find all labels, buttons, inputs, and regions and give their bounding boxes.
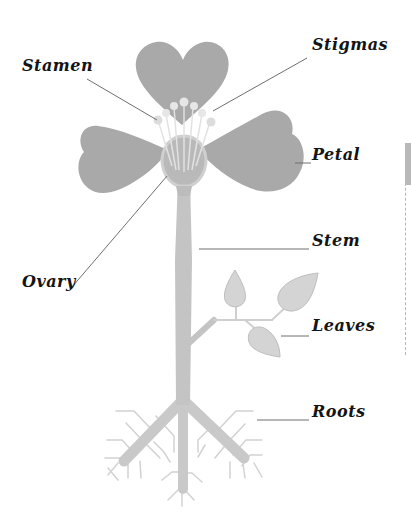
plant-diagram: Stamen Stigmas Petal Stem Ovary Leaves R… bbox=[0, 0, 411, 528]
leaves bbox=[224, 270, 318, 357]
page-edge-tab bbox=[405, 143, 411, 185]
stamen-tip bbox=[154, 116, 163, 125]
petal-top bbox=[136, 42, 229, 125]
leaf-twigs bbox=[214, 302, 290, 333]
leaf-top bbox=[224, 270, 245, 307]
petal-left bbox=[78, 126, 168, 193]
label-leaves: Leaves bbox=[312, 316, 375, 335]
main-roots bbox=[124, 400, 244, 489]
stem bbox=[175, 178, 192, 405]
leader-ovary bbox=[72, 176, 167, 287]
plant-illustration bbox=[0, 0, 411, 528]
label-stamen: Stamen bbox=[22, 56, 93, 75]
label-stigmas: Stigmas bbox=[312, 35, 388, 54]
label-ovary: Ovary bbox=[22, 272, 76, 291]
leaf-right bbox=[278, 273, 318, 311]
leaf-bottom bbox=[248, 327, 280, 357]
leaf-branch bbox=[188, 320, 214, 344]
label-roots: Roots bbox=[312, 402, 366, 421]
label-petal: Petal bbox=[312, 145, 360, 164]
label-stem: Stem bbox=[312, 231, 360, 250]
stigma-tip bbox=[207, 118, 216, 127]
